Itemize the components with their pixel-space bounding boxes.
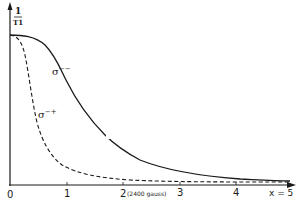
- label-sigma-minus-minus: σ−−: [52, 65, 71, 77]
- x-tick-3: 3: [177, 187, 183, 198]
- curve-gap: [106, 134, 110, 139]
- x-tick-4: 4: [233, 187, 239, 198]
- y-axis-arrow-icon: [8, 2, 13, 10]
- x-tick-1: 1: [64, 188, 70, 199]
- x-tick-5: x = 5: [269, 188, 293, 198]
- y-label-numerator: 1: [15, 6, 21, 16]
- label-sigma-minus-plus: σ−+: [38, 108, 57, 120]
- x-tick-2: 2: [120, 188, 126, 199]
- x-tick-2-note: (2400 gauss): [127, 190, 166, 198]
- x-tick-0: 0: [7, 189, 13, 200]
- y-label-denominator: T1: [13, 18, 23, 27]
- chart: 1 T1 0 1 2 (2400 gauss) 3 4 x = 5 σ−− σ−…: [0, 0, 300, 202]
